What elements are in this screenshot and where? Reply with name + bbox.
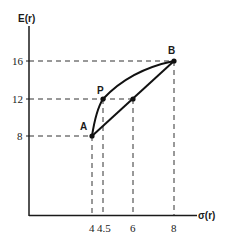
y-axis-title: E(r) [18, 13, 35, 24]
risk-return-diagram: A P B E(r) σ(r) 16 12 8 4 4.5 6 8 [0, 0, 232, 242]
point-p-marker [100, 96, 105, 101]
point-b-marker [171, 58, 176, 63]
y-tick-12: 12 [12, 93, 23, 105]
point-a-marker [89, 133, 94, 138]
y-tick-8: 8 [17, 130, 23, 142]
x-tick-6: 6 [130, 222, 136, 234]
point-mid-marker [130, 96, 135, 101]
y-tick-16: 16 [12, 55, 24, 67]
x-tick-8: 8 [171, 222, 177, 234]
x-tick-4: 4 [89, 222, 95, 234]
point-a-label: A [80, 121, 87, 132]
point-p-label: P [97, 85, 104, 96]
x-axis-title: σ(r) [198, 210, 215, 221]
point-b-label: B [168, 45, 175, 56]
x-tick-4-5: 4.5 [97, 222, 111, 234]
